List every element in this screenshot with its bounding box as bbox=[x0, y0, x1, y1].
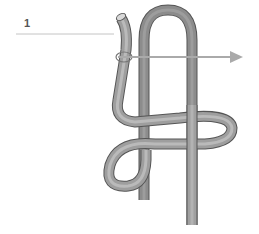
pull-arrow-icon bbox=[118, 51, 243, 63]
rope-working-end bbox=[109, 12, 232, 186]
knot-diagram bbox=[0, 0, 259, 234]
